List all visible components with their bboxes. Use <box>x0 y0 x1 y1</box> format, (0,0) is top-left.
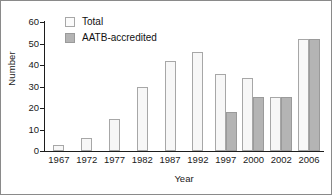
y-tick-mark <box>40 65 44 66</box>
y-tick-label: 50 <box>28 38 39 49</box>
bar-group <box>295 22 323 151</box>
y-tick-mark <box>40 87 44 88</box>
bar-total <box>81 138 92 151</box>
bar-total <box>215 74 226 151</box>
x-axis-ticks: 1967197219771982198719921997200020022006 <box>45 153 323 169</box>
legend-label-aatb-accredited: AATB-accredited <box>82 32 157 43</box>
y-tick-label: 30 <box>28 81 39 92</box>
x-tick-label: 1997 <box>212 154 240 165</box>
bar-total <box>270 97 281 151</box>
bar-group <box>212 22 240 151</box>
bar-total <box>165 61 176 151</box>
bar-total <box>192 52 203 151</box>
bar-aatb-accredited <box>281 97 292 151</box>
bar-group <box>156 22 184 151</box>
y-tick-mark <box>40 22 44 23</box>
bar-aatb-accredited <box>309 39 320 151</box>
bar-total <box>53 145 64 151</box>
legend-swatch-aatb-icon <box>65 33 75 43</box>
bar-total <box>137 87 148 152</box>
x-tick-label: 2006 <box>295 154 323 165</box>
y-tick-label: 10 <box>28 124 39 135</box>
x-tick-label: 1972 <box>73 154 101 165</box>
y-tick-label: 40 <box>28 59 39 70</box>
x-tick-label: 2002 <box>267 154 295 165</box>
y-tick-mark <box>40 108 44 109</box>
legend-label-total: Total <box>82 16 103 27</box>
y-tick-mark <box>40 44 44 45</box>
x-axis-line <box>44 151 324 152</box>
bar-total <box>242 78 253 151</box>
chart-legend: Total AATB-accredited <box>65 15 157 47</box>
bar-aatb-accredited <box>253 97 264 151</box>
bar-total <box>298 39 309 151</box>
x-tick-label: 1982 <box>128 154 156 165</box>
x-tick-label: 1977 <box>101 154 129 165</box>
legend-item-total: Total <box>65 15 157 28</box>
legend-swatch-total-icon <box>65 17 75 27</box>
bar-total <box>109 119 120 151</box>
x-axis-title: Year <box>45 173 323 184</box>
y-tick-mark <box>40 130 44 131</box>
y-tick-mark <box>40 151 44 152</box>
x-tick-label: 1992 <box>184 154 212 165</box>
x-tick-label: 2000 <box>240 154 268 165</box>
y-axis-title: Number <box>6 38 17 100</box>
x-tick-label: 1967 <box>45 154 73 165</box>
bar-group <box>184 22 212 151</box>
bar-aatb-accredited <box>226 112 237 151</box>
x-tick-label: 1987 <box>156 154 184 165</box>
y-tick-label: 60 <box>28 16 39 27</box>
chart-figure: Number 0102030405060 1967197219771982198… <box>0 0 332 195</box>
bar-group <box>240 22 268 151</box>
legend-item-aatb-accredited: AATB-accredited <box>65 31 157 44</box>
y-tick-label: 20 <box>28 102 39 113</box>
bar-group <box>267 22 295 151</box>
y-tick-label: 0 <box>34 145 39 156</box>
